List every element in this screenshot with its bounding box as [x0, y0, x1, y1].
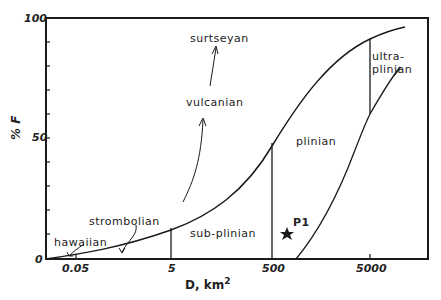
strombolian-arrowhead: [119, 248, 125, 253]
x-axis-title-text: D, km: [185, 278, 224, 292]
y-axis-title: % F: [10, 116, 22, 140]
label-plinian: plinian: [296, 136, 336, 147]
y-tick-50: 50: [32, 132, 47, 143]
label-p1: P1: [293, 217, 310, 228]
x-axis-title: D, km2: [185, 277, 230, 291]
label-ultra-plinian-line2: plinian: [372, 64, 412, 75]
label-strombolian: strombolian: [89, 216, 160, 227]
label-sub-plinian: sub-plinian: [190, 228, 256, 239]
label-surtseyan: surtseyan: [190, 33, 249, 44]
p1-star-marker: [280, 227, 294, 240]
lower-curve: [296, 67, 400, 259]
y-tick-100: 100: [24, 13, 47, 24]
label-vulcanian: vulcanian: [186, 97, 244, 108]
x-tick-500: 500: [262, 263, 285, 274]
surtseyan-arrow: [210, 48, 216, 86]
strombolian-pointer: [122, 225, 136, 252]
chart-canvas: [0, 0, 441, 300]
y-tick-0: 0: [35, 254, 43, 265]
x-tick-5: 5: [168, 263, 176, 274]
vulcanian-arrow: [183, 120, 203, 202]
x-tick-0.05: 0.05: [62, 263, 89, 274]
x-axis-title-sup: 2: [224, 276, 230, 286]
label-ultra-plinian-line1: ultra-: [372, 51, 405, 62]
label-hawaiian: hawaiian: [54, 237, 107, 248]
x-tick-5000: 5000: [356, 263, 387, 274]
